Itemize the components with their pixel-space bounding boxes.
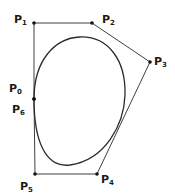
bezier-diagram	[0, 0, 175, 196]
label-p1: P1	[14, 14, 27, 27]
label-p3: P3	[154, 56, 167, 69]
control-point-p6	[32, 97, 36, 101]
control-point-p3	[148, 60, 152, 64]
control-point-markers	[32, 21, 152, 176]
bezier-curve	[34, 37, 125, 165]
label-p0: P0	[9, 83, 22, 96]
label-p5: P5	[20, 181, 33, 194]
control-point-p1	[32, 21, 36, 25]
control-point-p4	[95, 172, 99, 176]
label-p6: P6	[12, 104, 25, 117]
label-p4: P4	[101, 174, 114, 187]
control-polygon	[34, 23, 150, 174]
control-point-p5	[33, 172, 37, 176]
label-p2: P2	[102, 14, 115, 27]
control-point-p2	[90, 21, 94, 25]
